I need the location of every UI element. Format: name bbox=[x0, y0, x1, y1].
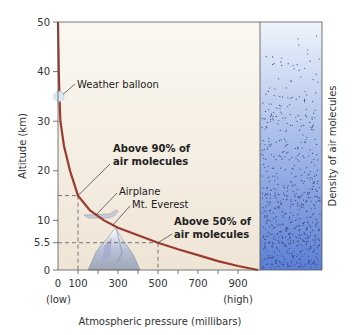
molecule-dot bbox=[271, 144, 272, 145]
molecule-dot bbox=[282, 238, 283, 239]
above-90-label: air molecules bbox=[113, 156, 188, 167]
molecule-dot bbox=[271, 115, 272, 116]
molecule-dot bbox=[311, 208, 312, 209]
molecule-dot bbox=[293, 65, 294, 66]
molecule-dot bbox=[273, 168, 274, 169]
molecule-dot bbox=[319, 198, 320, 199]
molecule-dot bbox=[298, 244, 299, 245]
molecule-dot bbox=[299, 225, 300, 226]
molecule-dot bbox=[286, 230, 287, 231]
molecule-dot bbox=[315, 110, 316, 111]
molecule-dot bbox=[269, 221, 270, 222]
molecule-dot bbox=[287, 264, 288, 265]
molecule-dot bbox=[287, 152, 288, 153]
molecule-dot bbox=[280, 201, 281, 202]
molecule-dot bbox=[279, 231, 280, 232]
molecule-dot bbox=[278, 206, 279, 207]
molecule-dot bbox=[290, 237, 291, 238]
molecule-dot bbox=[267, 201, 268, 202]
molecule-dot bbox=[316, 154, 317, 155]
molecule-dot bbox=[308, 260, 309, 261]
molecule-dot bbox=[307, 54, 308, 55]
molecule-dot bbox=[275, 239, 276, 240]
molecule-dot bbox=[301, 203, 302, 204]
molecule-dot bbox=[268, 257, 269, 258]
molecule-dot bbox=[283, 151, 284, 152]
molecule-dot bbox=[279, 140, 280, 141]
molecule-dot bbox=[272, 258, 273, 259]
molecule-dot bbox=[281, 243, 282, 244]
molecule-dot bbox=[268, 141, 269, 142]
molecule-dot bbox=[272, 118, 273, 119]
molecule-dot bbox=[287, 97, 288, 98]
molecule-dot bbox=[313, 159, 314, 160]
molecule-dot bbox=[309, 192, 310, 193]
molecule-dot bbox=[301, 126, 302, 127]
molecule-dot bbox=[301, 264, 302, 265]
molecule-dot bbox=[303, 204, 304, 205]
molecule-dot bbox=[295, 227, 296, 228]
molecule-dot bbox=[285, 244, 286, 245]
molecule-dot bbox=[312, 101, 313, 102]
molecule-dot bbox=[301, 251, 302, 252]
x-axis-label: Atmospheric pressure (millibars) bbox=[79, 316, 242, 327]
molecule-dot bbox=[304, 222, 305, 223]
molecule-dot bbox=[315, 238, 316, 239]
molecule-dot bbox=[278, 208, 279, 209]
molecule-dot bbox=[307, 49, 308, 50]
molecule-dot bbox=[287, 187, 288, 188]
molecule-dot bbox=[288, 265, 289, 266]
molecule-dot bbox=[286, 252, 287, 253]
molecule-dot bbox=[307, 238, 308, 239]
molecule-dot bbox=[283, 185, 284, 186]
molecule-dot bbox=[317, 82, 318, 83]
molecule-dot bbox=[296, 237, 297, 238]
above-90-label: Above 90% of bbox=[113, 143, 191, 154]
molecule-dot bbox=[295, 148, 296, 149]
molecule-dot bbox=[279, 155, 280, 156]
molecule-dot bbox=[293, 191, 294, 192]
molecule-dot bbox=[302, 249, 303, 250]
mt-everest-label: Mt. Everest bbox=[132, 199, 189, 210]
molecule-dot bbox=[267, 188, 268, 189]
molecule-dot bbox=[265, 111, 266, 112]
molecule-dot bbox=[311, 267, 312, 268]
molecule-dot bbox=[309, 122, 310, 123]
molecule-dot bbox=[263, 207, 264, 208]
molecule-dot bbox=[274, 180, 275, 181]
molecule-dot bbox=[287, 191, 288, 192]
molecule-dot bbox=[291, 242, 292, 243]
molecule-dot bbox=[272, 176, 273, 177]
molecule-dot bbox=[277, 201, 278, 202]
molecule-dot bbox=[312, 189, 313, 190]
molecule-dot bbox=[297, 38, 298, 39]
molecule-dot bbox=[297, 240, 298, 241]
molecule-dot bbox=[300, 237, 301, 238]
molecule-dot bbox=[267, 146, 268, 147]
molecule-dot bbox=[276, 116, 277, 117]
molecule-dot bbox=[299, 258, 300, 259]
molecule-dot bbox=[294, 68, 295, 69]
molecule-dot bbox=[279, 266, 280, 267]
molecule-dot bbox=[284, 187, 285, 188]
molecule-dot bbox=[271, 104, 272, 105]
x-tick-label: 300 bbox=[108, 278, 127, 289]
molecule-dot bbox=[268, 166, 269, 167]
weather-balloon-label: Weather balloon bbox=[77, 79, 159, 90]
molecule-dot bbox=[314, 208, 315, 209]
molecule-dot bbox=[298, 44, 299, 45]
molecule-dot bbox=[302, 194, 303, 195]
molecule-dot bbox=[263, 164, 264, 165]
molecule-dot bbox=[287, 106, 288, 107]
molecule-dot bbox=[281, 139, 282, 140]
molecule-dot bbox=[289, 104, 290, 105]
molecule-dot bbox=[270, 234, 271, 235]
molecule-dot bbox=[308, 194, 309, 195]
molecule-dot bbox=[314, 176, 315, 177]
molecule-dot bbox=[307, 222, 308, 223]
molecule-dot bbox=[295, 117, 296, 118]
molecule-dot bbox=[268, 177, 269, 178]
molecule-dot bbox=[282, 237, 283, 238]
molecule-dot bbox=[291, 221, 292, 222]
molecule-dot bbox=[290, 114, 291, 115]
